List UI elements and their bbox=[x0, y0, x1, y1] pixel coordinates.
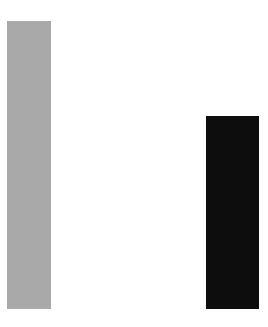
bar-black bbox=[206, 116, 259, 309]
bar-gray bbox=[7, 21, 51, 309]
plot-area bbox=[0, 0, 268, 327]
chart-canvas bbox=[0, 0, 268, 327]
